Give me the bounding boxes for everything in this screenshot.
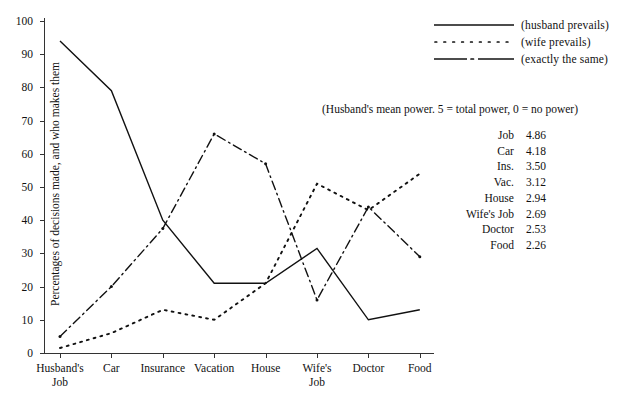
table-row: Ins.3.50 bbox=[466, 159, 546, 175]
power-row-label: House bbox=[466, 191, 526, 207]
data-point bbox=[418, 255, 421, 258]
table-row: Food2.26 bbox=[466, 238, 546, 254]
legend: (husband prevails) (wife prevails) (exac… bbox=[434, 16, 609, 67]
table-row: House2.94 bbox=[466, 191, 546, 207]
dotted-line-icon bbox=[434, 36, 514, 48]
series-lines bbox=[44, 18, 434, 356]
y-axis-tick-label: 10 bbox=[22, 320, 34, 321]
y-axis-tick-label: 30 bbox=[22, 253, 34, 254]
mean-power-table: Job4.86Car4.18Ins.3.50Vac.3.12House2.94W… bbox=[466, 128, 546, 254]
x-axis-tick-label: Vacation bbox=[194, 362, 234, 376]
data-point bbox=[110, 285, 113, 288]
table-row: Doctor2.53 bbox=[466, 222, 546, 238]
power-row-value: 4.86 bbox=[526, 128, 546, 144]
data-point bbox=[316, 298, 319, 301]
x-axis-tick-label: Wife'sJob bbox=[302, 362, 331, 389]
table-row: Vac.3.12 bbox=[466, 175, 546, 191]
data-point bbox=[161, 227, 164, 230]
data-point bbox=[213, 132, 216, 135]
power-row-label: Ins. bbox=[466, 159, 526, 175]
y-axis-tick-label: 90 bbox=[22, 54, 34, 55]
series-line bbox=[60, 134, 420, 337]
x-axis-tick-label: Husband'sJob bbox=[36, 362, 83, 389]
plot-area: 0102030405060708090100 Husband'sJobCarIn… bbox=[44, 18, 434, 356]
data-point bbox=[59, 335, 62, 338]
power-row-value: 2.69 bbox=[526, 207, 546, 223]
power-row-label: Job bbox=[466, 128, 526, 144]
power-row-value: 2.53 bbox=[526, 222, 546, 238]
power-row-value: 3.50 bbox=[526, 159, 546, 175]
x-axis-tick-label: Food bbox=[408, 362, 432, 376]
legend-item-exactly-the-same: (exactly the same) bbox=[434, 50, 609, 67]
y-axis-tick-label: 100 bbox=[16, 21, 33, 22]
power-row-label: Doctor bbox=[466, 222, 526, 238]
series-line bbox=[60, 41, 420, 320]
data-point bbox=[264, 162, 267, 165]
legend-item-husband-prevails: (husband prevails) bbox=[434, 16, 609, 33]
y-axis-tick-label: 80 bbox=[22, 87, 34, 88]
power-row-label: Wife's Job bbox=[466, 207, 526, 223]
dash-dot-line-icon bbox=[434, 53, 514, 65]
x-axis-tick-label: House bbox=[251, 362, 280, 376]
mean-power-annotation: (Husband's mean power. 5 = total power, … bbox=[322, 103, 578, 115]
legend-label: (exactly the same) bbox=[521, 53, 608, 65]
legend-label: (wife prevails) bbox=[521, 36, 591, 48]
y-axis-tick-label: 40 bbox=[22, 220, 34, 221]
x-axis-tick-label: Car bbox=[103, 362, 120, 376]
legend-label: (husband prevails) bbox=[521, 19, 609, 31]
y-axis-tick-label: 20 bbox=[22, 287, 34, 288]
x-axis-tick-label: Insurance bbox=[140, 362, 185, 376]
power-row-value: 4.18 bbox=[526, 144, 546, 160]
table-row: Job4.86 bbox=[466, 128, 546, 144]
legend-item-wife-prevails: (wife prevails) bbox=[434, 33, 609, 50]
y-axis-tick-label: 0 bbox=[27, 353, 33, 354]
power-row-label: Food bbox=[466, 238, 526, 254]
series-line bbox=[60, 174, 420, 348]
y-axis-tick-label: 70 bbox=[22, 121, 34, 122]
table-row: Car4.18 bbox=[466, 144, 546, 160]
chart-figure: Percentages of decisions made, and who m… bbox=[0, 0, 622, 402]
solid-line-icon bbox=[434, 19, 514, 31]
power-row-value: 3.12 bbox=[526, 175, 546, 191]
y-axis-tick-label: 50 bbox=[22, 187, 34, 188]
y-axis-tick-label: 60 bbox=[22, 154, 34, 155]
power-row-value: 2.26 bbox=[526, 238, 546, 254]
data-point bbox=[367, 205, 370, 208]
power-row-value: 2.94 bbox=[526, 191, 546, 207]
power-row-label: Car bbox=[466, 144, 526, 160]
power-row-label: Vac. bbox=[466, 175, 526, 191]
x-axis-tick-label: Doctor bbox=[352, 362, 384, 376]
table-row: Wife's Job2.69 bbox=[466, 207, 546, 223]
